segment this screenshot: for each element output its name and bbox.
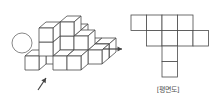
eye-circle-icon	[12, 33, 32, 53]
plan-view-grid	[131, 15, 209, 77]
plan-view-label: [평면도]	[150, 84, 186, 94]
plan-cell	[178, 31, 194, 47]
cube-stack	[25, 16, 116, 70]
plan-cell	[162, 31, 178, 47]
plan-cell	[162, 46, 178, 62]
plan-cell	[193, 31, 209, 47]
plan-cell	[147, 15, 163, 31]
cube	[39, 22, 60, 42]
plan-cell	[162, 62, 178, 78]
plan-cell	[162, 15, 178, 31]
plan-cell	[147, 31, 163, 47]
cube	[60, 16, 81, 36]
plan-cell	[131, 15, 147, 31]
cube	[67, 50, 88, 70]
right-arrow-head-icon	[118, 46, 123, 51]
plan-cell	[178, 15, 194, 31]
